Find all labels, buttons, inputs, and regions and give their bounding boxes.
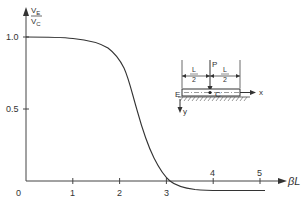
svg-text:VC: VC (31, 17, 41, 27)
x-tick-label-3: 3 (164, 188, 169, 198)
x-tick-label-2: 2 (117, 188, 122, 198)
x-axis-label: βL (287, 175, 300, 187)
y-axis-label: VE VC (31, 6, 42, 27)
data-curve (26, 37, 265, 191)
chart: 0 1 2 3 4 5 0.5 1.0 βL VE VC L 2 L 2 P (0, 0, 306, 209)
svg-text:C: C (215, 90, 221, 99)
inset-beam-diagram: L 2 L 2 P E C x (175, 60, 263, 116)
svg-text:2: 2 (192, 76, 196, 83)
svg-text:x: x (259, 88, 263, 97)
y-axis-arrow (23, 7, 29, 16)
svg-text:L: L (223, 66, 227, 73)
origin-label: 0 (16, 188, 21, 198)
x-tick-label-5: 5 (257, 168, 262, 178)
y-tick-label-1.0: 1.0 (6, 32, 19, 42)
x-tick-label-4: 4 (210, 168, 215, 178)
x-tick-label-1: 1 (70, 188, 75, 198)
svg-text:y: y (183, 107, 187, 116)
svg-text:VE: VE (31, 6, 40, 16)
y-tick-label-0.5: 0.5 (6, 104, 19, 114)
svg-text:2: 2 (223, 76, 227, 83)
x-axis-arrow (278, 178, 287, 184)
svg-text:L: L (192, 66, 196, 73)
svg-text:P: P (212, 60, 217, 69)
svg-text:E: E (175, 90, 180, 99)
